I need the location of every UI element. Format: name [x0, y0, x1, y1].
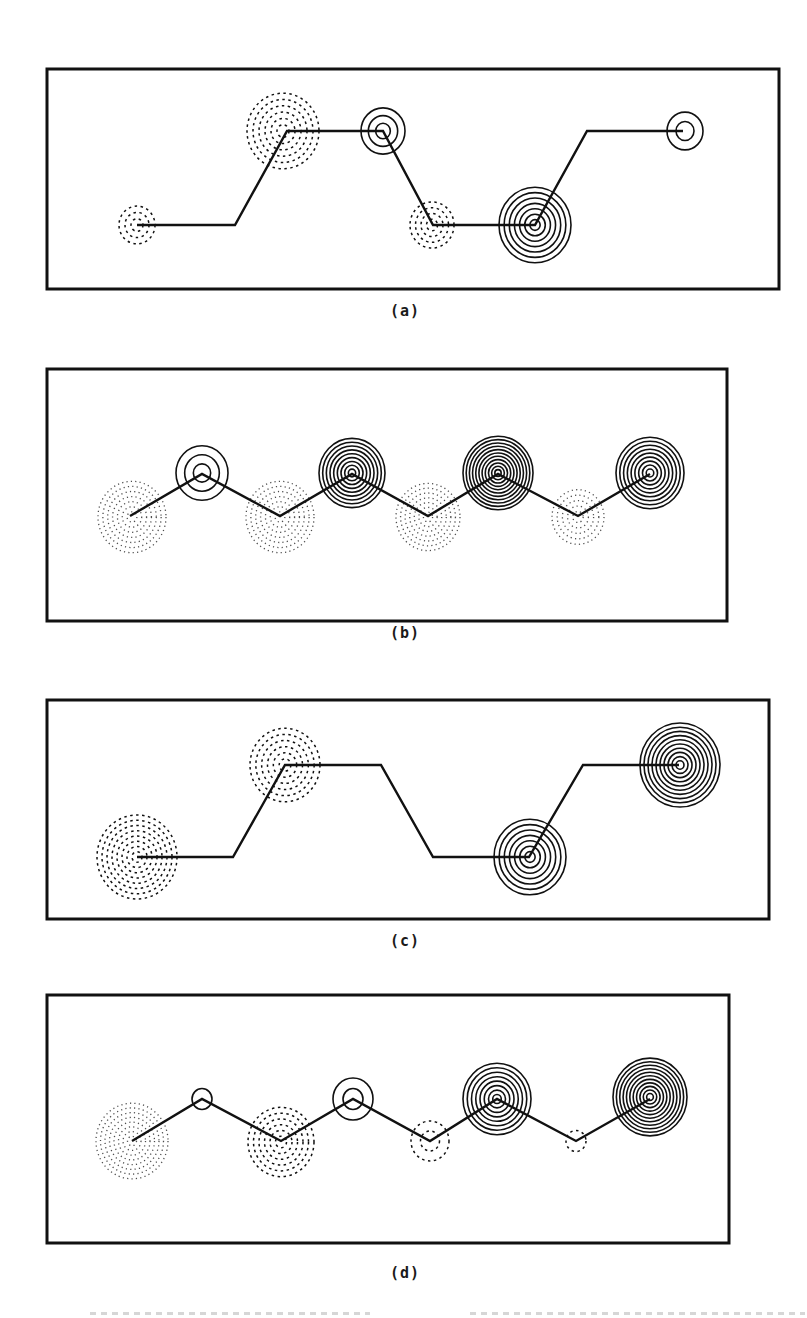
molecular-chain	[137, 765, 679, 857]
panel-label-a: (a)	[390, 302, 420, 320]
contour-figure	[0, 0, 807, 1318]
positive-lobe-contour	[613, 1058, 687, 1136]
panel-label-d: (d)	[390, 1264, 420, 1282]
caption-fragment	[90, 1312, 370, 1315]
panel-label-c: (c)	[390, 932, 420, 950]
panel-d	[47, 995, 729, 1243]
panel-frame	[47, 369, 727, 621]
panel-b	[47, 369, 727, 621]
negative-lobe-contour	[98, 481, 166, 552]
panel-frame	[47, 69, 779, 289]
panel-c	[47, 700, 769, 919]
caption-fragment	[470, 1312, 805, 1315]
clipped-caption	[0, 1308, 807, 1318]
panel-a	[47, 69, 779, 289]
figure: (a) (b) (c) (d)	[0, 0, 807, 1318]
positive-lobe-contour	[616, 437, 684, 508]
panel-label-b: (b)	[390, 624, 420, 642]
molecular-chain	[137, 131, 683, 225]
